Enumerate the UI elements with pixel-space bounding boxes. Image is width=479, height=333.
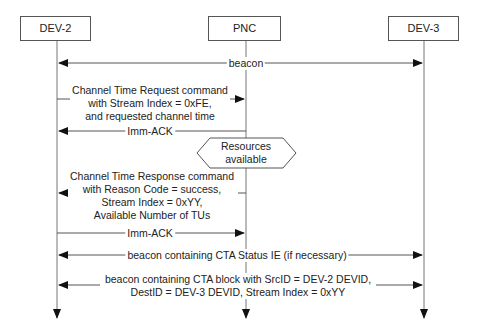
message-channel-time-response: Channel Time Response command with Reaso… bbox=[70, 170, 234, 222]
message-channel-time-request: Channel Time Request command with Stream… bbox=[72, 84, 228, 123]
participant-dev-3: DEV-3 bbox=[388, 16, 459, 41]
message-cta-block-beacon: beacon containing CTA block with SrcID =… bbox=[103, 273, 373, 299]
condition-line: available bbox=[221, 153, 271, 166]
message-line: beacon containing CTA block with SrcID =… bbox=[105, 273, 371, 286]
condition-resources-available: Resources available bbox=[221, 140, 271, 166]
message-line: Channel Time Response command bbox=[70, 170, 234, 183]
message-line: and requested channel time bbox=[72, 110, 228, 123]
message-line: with Stream Index = 0xFE, bbox=[72, 97, 228, 110]
message-beacon: beacon bbox=[227, 57, 265, 70]
message-line: with Reason Code = success, bbox=[70, 183, 234, 196]
message-line: Available Number of TUs bbox=[70, 209, 234, 222]
participant-dev-2: DEV-2 bbox=[20, 16, 91, 41]
participant-pnc: PNC bbox=[208, 16, 281, 41]
condition-line: Resources bbox=[221, 140, 271, 153]
message-line: Stream Index = 0xYY, bbox=[70, 196, 234, 209]
message-imm-ack-2: Imm-ACK bbox=[125, 227, 175, 240]
message-cta-status-beacon: beacon containing CTA Status IE (if nece… bbox=[125, 249, 348, 262]
message-imm-ack-1: Imm-ACK bbox=[125, 125, 175, 138]
message-line: Channel Time Request command bbox=[72, 84, 228, 97]
message-line: DestID = DEV-3 DEVID, Stream Index = 0xY… bbox=[105, 286, 371, 299]
